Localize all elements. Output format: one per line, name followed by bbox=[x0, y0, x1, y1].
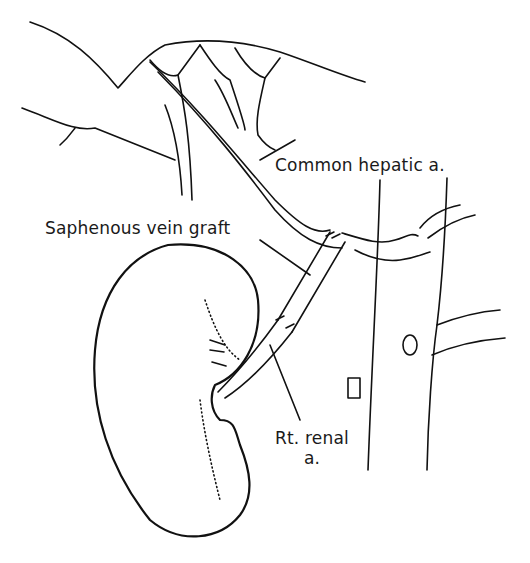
label-renal-line1: Rt. renal bbox=[262, 428, 362, 448]
liver-outline bbox=[22, 22, 365, 160]
aorta-ivc bbox=[348, 178, 505, 470]
label-right-renal-artery: Rt. renal a. bbox=[262, 428, 362, 468]
label-saphenous-vein-graft: Saphenous vein graft bbox=[45, 218, 230, 238]
label-renal-line2: a. bbox=[262, 448, 362, 468]
label-common-hepatic-artery: Common hepatic a. bbox=[275, 155, 445, 175]
right-kidney bbox=[94, 244, 258, 536]
right-renal-artery bbox=[210, 320, 292, 398]
hepatic-branches bbox=[150, 45, 280, 200]
anatomy-drawing bbox=[0, 0, 530, 563]
diagram-canvas: Common hepatic a. Saphenous vein graft R… bbox=[0, 0, 530, 563]
